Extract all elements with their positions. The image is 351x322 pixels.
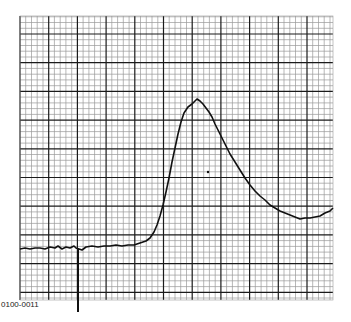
minor-grid bbox=[20, 16, 333, 300]
figure-label: 0100-0011 bbox=[1, 300, 39, 309]
chart-paper-strip bbox=[0, 0, 351, 322]
major-grid bbox=[20, 16, 333, 300]
trace-line bbox=[20, 99, 333, 250]
stray-dot bbox=[207, 171, 209, 173]
grid-border bbox=[20, 16, 333, 300]
